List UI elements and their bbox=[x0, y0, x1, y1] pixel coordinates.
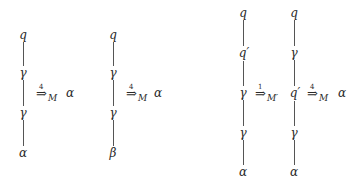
tree-node-state: q bbox=[109, 29, 117, 41]
edge bbox=[23, 80, 24, 106]
edge bbox=[113, 120, 114, 146]
tree-leaf: β bbox=[110, 147, 117, 159]
edge bbox=[243, 61, 244, 86]
derivation-arrow-2: 4 ⇒M bbox=[126, 88, 147, 101]
edge bbox=[113, 42, 114, 66]
tree-node: γ bbox=[19, 67, 26, 79]
result-node: α bbox=[154, 87, 162, 99]
derivation-arrow-4: 4 ⇒M bbox=[307, 88, 328, 101]
result-node: α bbox=[66, 87, 74, 99]
result-node: α bbox=[338, 87, 346, 99]
tree-leaf: α bbox=[290, 166, 298, 178]
tree-node-state: q′ bbox=[290, 87, 300, 99]
step-count: 1 bbox=[258, 81, 262, 93]
tree-node: γ bbox=[290, 47, 297, 59]
edge bbox=[23, 120, 24, 146]
machine-label: M bbox=[138, 93, 147, 103]
derivation-arrow-1: 4 ⇒M bbox=[36, 88, 57, 101]
edge bbox=[294, 60, 295, 86]
edge bbox=[294, 101, 295, 126]
step-count: 4 bbox=[129, 81, 133, 93]
tree-node: γ bbox=[239, 127, 246, 139]
machine-label: M bbox=[319, 93, 328, 103]
machine-label: M bbox=[48, 93, 57, 103]
tree-node: γ bbox=[290, 127, 297, 139]
edge bbox=[243, 100, 244, 126]
tree-node-state: q bbox=[19, 29, 27, 41]
tree-node-state: q bbox=[290, 7, 298, 19]
machine-label: M′ bbox=[267, 93, 278, 103]
tree-node: γ bbox=[239, 87, 246, 99]
edge bbox=[243, 20, 244, 46]
edge bbox=[23, 42, 24, 66]
tree-node: γ bbox=[109, 67, 116, 79]
edge bbox=[113, 80, 114, 106]
tree-leaf: α bbox=[19, 147, 27, 159]
step-count: 4 bbox=[39, 81, 43, 93]
derivation-arrow-3: 1 ⇒M′ bbox=[255, 88, 278, 101]
tree-node: γ bbox=[109, 107, 116, 119]
step-count: 4 bbox=[310, 81, 314, 93]
tree-node-state: q′ bbox=[239, 47, 249, 59]
edge bbox=[243, 140, 244, 165]
edge bbox=[294, 140, 295, 165]
tree-node-state: q bbox=[239, 7, 247, 19]
edge bbox=[294, 20, 295, 46]
tree-node: γ bbox=[19, 107, 26, 119]
tree-leaf: α bbox=[239, 166, 247, 178]
